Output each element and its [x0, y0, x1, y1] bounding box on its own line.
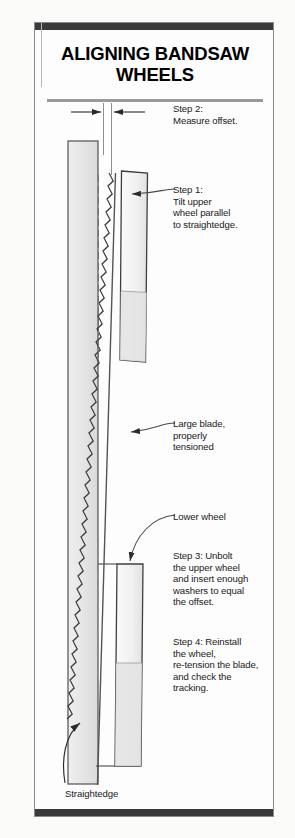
diagram-canvas [35, 23, 274, 817]
leader-lower-wheel [130, 515, 175, 561]
annotation-straightedge: Straightedge [65, 788, 118, 800]
straightedge-part [68, 141, 98, 784]
annotation-lower-wheel: Lower wheel [173, 511, 226, 523]
leader-large-blade [131, 423, 175, 432]
annotation-step-4: Step 4: Reinstall the wheel, re-tension … [173, 636, 258, 694]
annotation-step-1: Step 1: Tilt upper wheel parallel to str… [173, 184, 238, 230]
upper-wheel-part [120, 171, 148, 362]
annotation-large-blade: Large blade, properly tensioned [173, 418, 225, 453]
illustration-page: ALIGNING BANDSAW WHEELS [0, 0, 295, 838]
diagram-frame: ALIGNING BANDSAW WHEELS [34, 22, 274, 817]
annotation-step-3: Step 3: Unbolt the upper wheel and inser… [173, 550, 248, 608]
annotation-step-2: Step 2: Measure offset. [173, 103, 237, 126]
